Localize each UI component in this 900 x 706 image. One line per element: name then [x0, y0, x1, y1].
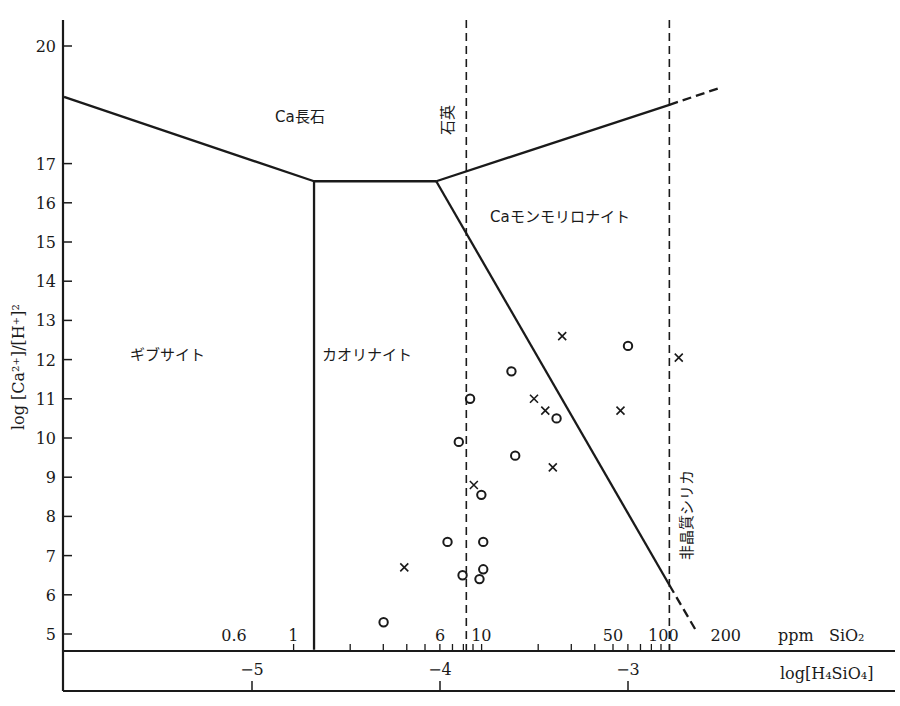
circle-marker — [552, 414, 560, 422]
x-axis-log-label: log[H₄SiO₄] — [780, 664, 873, 683]
ppm-tick-label: 100 — [648, 626, 679, 645]
circle-marker — [458, 571, 466, 579]
circle-marker — [379, 618, 387, 626]
y-tick-label: 17 — [36, 155, 56, 174]
circle-marker — [475, 575, 483, 583]
circle-marker — [624, 342, 632, 350]
cross-marker — [558, 332, 566, 340]
log-tick-label: −3 — [616, 660, 640, 679]
y-tick-label: 12 — [36, 351, 56, 370]
y-tick-label: 14 — [36, 272, 56, 291]
cross-marker — [530, 395, 538, 403]
y-tick-label: 9 — [46, 468, 56, 487]
circle-marker — [477, 491, 485, 499]
cross-marker — [616, 407, 624, 415]
phase-boundaries — [64, 87, 722, 650]
amorphous-silica-label: 非晶質シリカ — [678, 470, 696, 560]
cross-marker — [400, 563, 408, 571]
circle-marker — [511, 451, 519, 459]
circle-marker — [479, 565, 487, 573]
boundary-extension-feldspar-montmorillonite — [669, 87, 722, 105]
y-tick-label: 10 — [36, 429, 56, 448]
y-tick-label: 5 — [46, 625, 56, 644]
y-tick-label: 13 — [36, 311, 56, 330]
stability-diagram: 20171615141312111098765 0.6161050100200 … — [0, 0, 900, 706]
cross-marker — [549, 463, 557, 471]
data-points — [379, 332, 682, 626]
ppm-tick-label: 1 — [288, 626, 298, 645]
ppm-tick-label: 200 — [710, 626, 741, 645]
y-tick-label: 15 — [36, 233, 56, 252]
quartz-label: 石英 — [439, 105, 457, 135]
boundary-kaolinite-montmorillonite — [436, 181, 669, 585]
cross-marker — [541, 407, 549, 415]
y-axis-ticks: 20171615141312111098765 — [36, 37, 72, 644]
log-axis-ticks: −5−4−3 — [240, 660, 640, 691]
ppm-tick-label: 10 — [471, 626, 491, 645]
x-axis-ppm-label: ppm SiO₂ — [778, 626, 865, 645]
region-label-gibbsite: ギブサイト — [130, 346, 205, 364]
ppm-tick-label: 0.6 — [221, 626, 246, 645]
y-tick-label: 8 — [46, 507, 56, 526]
log-tick-label: −5 — [240, 660, 264, 679]
y-tick-label: 11 — [36, 390, 56, 409]
y-tick-label: 16 — [36, 194, 56, 213]
ppm-axis-ticks: 0.6161050100200 — [221, 626, 741, 651]
y-axis-label: log [Ca²⁺]/[H⁺]² — [9, 304, 28, 430]
cross-marker — [675, 354, 683, 362]
region-label-montmorillonite: Caモンモリロナイト — [490, 208, 630, 226]
boundary-extension-kaolinite-montmorillonite — [669, 585, 695, 630]
circle-marker — [479, 538, 487, 546]
circle-marker — [443, 538, 451, 546]
ppm-tick-label: 50 — [603, 626, 623, 645]
y-tick-label: 6 — [46, 586, 56, 605]
y-tick-label: 20 — [36, 37, 56, 56]
ppm-tick-label: 6 — [435, 626, 445, 645]
circle-marker — [455, 438, 463, 446]
region-label-kaolinite: カオリナイト — [322, 346, 412, 364]
boundary-feldspar-montmorillonite — [436, 105, 669, 181]
region-label-feldspar: Ca長石 — [275, 108, 325, 126]
log-tick-label: −4 — [428, 660, 452, 679]
circle-marker — [466, 395, 474, 403]
cross-marker — [470, 481, 478, 489]
circle-marker — [507, 367, 515, 375]
y-tick-label: 7 — [46, 547, 56, 566]
